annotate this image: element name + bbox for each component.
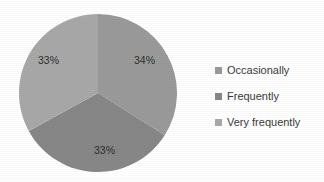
chart-legend: Occasionally Frequently Very frequently [215, 57, 323, 135]
slice-value-label-frequently: 33% [94, 144, 115, 156]
slice-value-label-very-frequently: 33% [38, 54, 59, 66]
legend-item-very-frequently[interactable]: Very frequently [215, 109, 323, 135]
legend-swatch-icon [215, 93, 222, 100]
pie-chart-figure: 34% 33% 33% Occasionally Frequently Very… [0, 0, 324, 182]
legend-item-label: Occasionally [227, 65, 289, 76]
slice-value-label-occasionally: 34% [134, 54, 155, 66]
legend-item-occasionally[interactable]: Occasionally [215, 57, 323, 83]
legend-swatch-icon [215, 119, 222, 126]
legend-item-label: Very frequently [227, 117, 300, 128]
legend-item-frequently[interactable]: Frequently [215, 83, 323, 109]
legend-item-label: Frequently [227, 91, 279, 102]
legend-swatch-icon [215, 67, 222, 74]
